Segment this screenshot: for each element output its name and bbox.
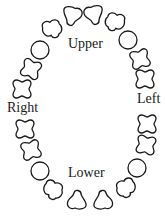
upper-tooth-5[interactable] xyxy=(61,6,83,27)
upper-label: Upper xyxy=(68,37,103,51)
dental-chart: Upper Right Left Lower xyxy=(0,0,165,217)
upper-tooth-6[interactable] xyxy=(83,5,105,26)
lower-arch xyxy=(16,115,157,209)
lower-tooth-5[interactable] xyxy=(67,190,86,209)
lower-tooth-10[interactable] xyxy=(138,115,156,133)
lower-tooth-4[interactable] xyxy=(41,178,66,202)
lower-tooth-8[interactable] xyxy=(128,159,146,177)
upper-tooth-1[interactable] xyxy=(13,80,31,98)
upper-tooth-2[interactable] xyxy=(19,57,42,80)
left-label: Left xyxy=(137,92,160,106)
upper-tooth-8[interactable] xyxy=(119,31,137,49)
lower-tooth-9[interactable] xyxy=(135,134,156,155)
lower-tooth-7[interactable] xyxy=(113,176,138,200)
lower-label: Lower xyxy=(68,166,105,180)
upper-arch xyxy=(13,5,154,99)
right-label: Right xyxy=(7,101,38,115)
lower-tooth-3[interactable] xyxy=(31,162,49,180)
upper-tooth-7[interactable] xyxy=(104,12,126,33)
upper-tooth-10[interactable] xyxy=(136,70,154,88)
lower-tooth-6[interactable] xyxy=(94,190,113,209)
upper-tooth-4[interactable] xyxy=(41,19,63,40)
lower-tooth-2[interactable] xyxy=(20,139,42,161)
upper-tooth-3[interactable] xyxy=(31,41,49,59)
lower-tooth-1[interactable] xyxy=(16,120,34,138)
upper-tooth-9[interactable] xyxy=(129,48,151,70)
